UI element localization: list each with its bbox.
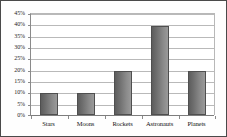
gridline — [31, 48, 214, 49]
plot-area — [30, 13, 215, 115]
y-axis-tick-label: 25% — [3, 55, 25, 61]
y-tick-mark — [28, 105, 31, 106]
y-axis-tick-label: 45% — [3, 10, 25, 16]
x-tick-mark — [179, 116, 180, 119]
x-tick-mark — [142, 116, 143, 119]
x-tick-mark — [215, 116, 216, 119]
y-axis-tick-label: 35% — [3, 33, 25, 39]
bar-rockets[interactable] — [114, 71, 132, 115]
y-axis-tick-label: 0% — [3, 112, 25, 118]
y-tick-mark — [28, 37, 31, 38]
gridline — [31, 37, 214, 38]
y-axis-tick-label: 15% — [3, 78, 25, 84]
x-tick-mark — [68, 116, 69, 119]
bar-moons[interactable] — [77, 93, 95, 115]
x-axis-tick-label-planets: Planets — [178, 120, 215, 127]
x-axis-tick-label-moons: Moons — [67, 120, 104, 127]
gridline — [31, 14, 214, 15]
y-tick-mark — [28, 14, 31, 15]
y-tick-mark — [28, 93, 31, 94]
gridline — [31, 59, 214, 60]
bar-astronauts[interactable] — [151, 26, 169, 115]
gridline — [31, 25, 214, 26]
chart-frame: 45% 40% 35% 30% 25% 20% 15% 10% 5% 0% — [0, 0, 227, 137]
y-axis-tick-label: 10% — [3, 89, 25, 95]
y-axis-tick-label: 5% — [3, 101, 25, 107]
y-axis-tick-label: 30% — [3, 44, 25, 50]
y-tick-mark — [28, 48, 31, 49]
x-axis-tick-label-stars: Stars — [30, 120, 67, 127]
x-tick-mark — [31, 116, 32, 119]
y-axis-tick-label: 20% — [3, 67, 25, 73]
y-tick-mark — [28, 59, 31, 60]
y-tick-mark — [28, 82, 31, 83]
bar-planets[interactable] — [188, 71, 206, 115]
y-axis-tick-label: 40% — [3, 21, 25, 27]
bar-stars[interactable] — [40, 93, 58, 115]
x-tick-mark — [105, 116, 106, 119]
y-tick-mark — [28, 71, 31, 72]
x-axis-line — [31, 115, 214, 116]
x-axis-tick-label-rockets: Rockets — [104, 120, 141, 127]
x-axis-tick-label-astronauts: Astronauts — [141, 120, 178, 127]
y-tick-mark — [28, 25, 31, 26]
